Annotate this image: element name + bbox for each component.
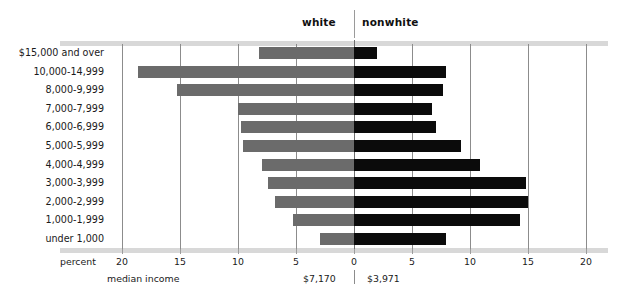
bar-nonwhite: [354, 103, 432, 115]
axis-tick-label: 5: [293, 256, 299, 267]
chart-row: [108, 44, 596, 63]
axis-tickmark: [122, 249, 123, 254]
axis-tick-label: 20: [580, 256, 592, 267]
bar-white: [243, 140, 354, 152]
axis-tick-label: 10: [232, 256, 244, 267]
chart-row: [108, 137, 596, 156]
bar-white: [262, 159, 354, 171]
axis-tickmark: [296, 249, 297, 254]
axis-tick-label: 5: [409, 256, 415, 267]
category-label: $15,000 and over: [0, 47, 104, 58]
axis-tickmark: [528, 249, 529, 254]
category-label: 5,000-5,999: [0, 140, 104, 151]
bar-nonwhite: [354, 121, 436, 133]
bar-white: [241, 121, 354, 133]
bar-nonwhite: [354, 47, 377, 59]
group-label-nonwhite: nonwhite: [362, 16, 419, 28]
axis-tick-label: 10: [464, 256, 476, 267]
axis-caption-percent: percent: [60, 256, 96, 267]
axis-tickmark: [470, 249, 471, 254]
axis-tick-label: 0: [351, 256, 357, 267]
bar-nonwhite: [354, 66, 446, 78]
chart-figure: white nonwhite $15,000 and over10,000-14…: [0, 0, 620, 293]
category-axis: $15,000 and over10,000-14,9998,000-9,999…: [0, 44, 104, 249]
chart-row: [108, 193, 596, 212]
median-income-white-value: $7,170: [303, 273, 336, 284]
bar-white: [259, 47, 354, 59]
category-label: 3,000-3,999: [0, 177, 104, 188]
chart-row: [108, 230, 596, 249]
median-income-nonwhite-value: $3,971: [367, 273, 400, 284]
median-income-divider: [354, 270, 355, 284]
category-label: 8,000-9,999: [0, 84, 104, 95]
axis-tick-label: 15: [174, 256, 186, 267]
axis-tickmark: [586, 249, 587, 254]
category-label: 2,000-2,999: [0, 196, 104, 207]
bar-nonwhite: [354, 84, 443, 96]
bar-nonwhite: [354, 159, 480, 171]
median-income-caption: median income: [107, 273, 179, 284]
group-label-white: white: [302, 16, 336, 28]
category-label: 10,000-14,999: [0, 66, 104, 77]
bar-nonwhite: [354, 233, 446, 245]
bar-nonwhite: [354, 196, 528, 208]
bar-white: [138, 66, 354, 78]
chart-row: [108, 211, 596, 230]
bar-white: [293, 214, 354, 226]
axis-tick-label: 20: [116, 256, 128, 267]
bar-white: [177, 84, 354, 96]
category-label: 4,000-4,999: [0, 159, 104, 170]
chart-row: [108, 156, 596, 175]
chart-row: [108, 118, 596, 137]
category-label: under 1,000: [0, 233, 104, 244]
bar-nonwhite: [354, 177, 526, 189]
category-label: 1,000-1,999: [0, 214, 104, 225]
chart-row: [108, 174, 596, 193]
axis-tick-label: 15: [522, 256, 534, 267]
category-label: 7,000-7,999: [0, 103, 104, 114]
bar-nonwhite: [354, 140, 461, 152]
bar-white: [268, 177, 354, 189]
axis-tickmark: [354, 249, 355, 254]
header-center-divider: [354, 10, 355, 38]
plot-area: [108, 44, 596, 249]
axis-tickmark: [412, 249, 413, 254]
axis-tickmark: [238, 249, 239, 254]
bar-white: [238, 103, 354, 115]
chart-row: [108, 81, 596, 100]
bar-white: [275, 196, 354, 208]
category-label: 6,000-6,999: [0, 121, 104, 132]
bar-nonwhite: [354, 214, 520, 226]
chart-row: [108, 100, 596, 119]
chart-row: [108, 63, 596, 82]
bar-white: [320, 233, 354, 245]
axis-tickmark: [180, 249, 181, 254]
